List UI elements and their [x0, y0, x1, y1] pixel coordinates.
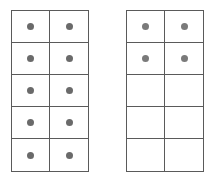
right-ten-frame — [126, 10, 204, 172]
counter-dot-icon — [66, 87, 73, 94]
counter-dot-icon — [66, 119, 73, 126]
filled-cell — [12, 139, 50, 171]
empty-cell — [127, 75, 165, 107]
counter-dot-icon — [27, 119, 34, 126]
counter-dot-icon — [66, 55, 73, 62]
left-ten-frame — [11, 10, 89, 172]
filled-cell — [127, 43, 165, 75]
counter-dot-icon — [27, 87, 34, 94]
filled-cell — [50, 75, 88, 107]
counter-dot-icon — [181, 23, 188, 30]
filled-cell — [50, 43, 88, 75]
filled-cell — [12, 75, 50, 107]
counter-dot-icon — [27, 23, 34, 30]
counter-dot-icon — [181, 55, 188, 62]
empty-cell — [127, 139, 165, 171]
filled-cell — [12, 43, 50, 75]
empty-cell — [127, 107, 165, 139]
filled-cell — [127, 11, 165, 43]
counter-dot-icon — [66, 23, 73, 30]
empty-cell — [165, 75, 203, 107]
empty-cell — [165, 107, 203, 139]
empty-cell — [165, 139, 203, 171]
filled-cell — [50, 11, 88, 43]
counter-dot-icon — [142, 23, 149, 30]
counter-dot-icon — [66, 152, 73, 159]
filled-cell — [165, 43, 203, 75]
filled-cell — [12, 107, 50, 139]
filled-cell — [12, 11, 50, 43]
counter-dot-icon — [142, 55, 149, 62]
counter-dot-icon — [27, 152, 34, 159]
counter-dot-icon — [27, 55, 34, 62]
filled-cell — [165, 11, 203, 43]
filled-cell — [50, 139, 88, 171]
filled-cell — [50, 107, 88, 139]
